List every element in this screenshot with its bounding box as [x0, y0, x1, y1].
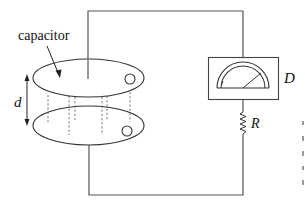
separation-double-arrow-icon: [25, 74, 30, 126]
separation-label: d: [14, 94, 22, 110]
resistor-label: R: [250, 116, 260, 131]
detector-meter: [209, 58, 279, 100]
capacitor-label: capacitor: [18, 28, 70, 43]
circuit-diagram: capacitor d D R: [0, 0, 305, 207]
circuit-wires: [88, 11, 243, 195]
top-plate-hole-icon: [125, 74, 135, 84]
resistor-zigzag-icon: [240, 112, 246, 134]
clipped-text-fragments: [302, 121, 304, 185]
capacitor-top-plate: [33, 59, 144, 97]
bottom-plate-hole-icon: [122, 126, 132, 136]
capacitor-bottom-plate: [33, 106, 144, 145]
detector-label: D: [283, 70, 295, 86]
